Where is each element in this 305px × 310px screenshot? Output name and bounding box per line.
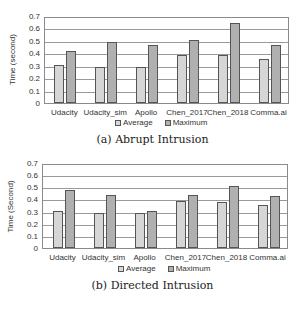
gridline bbox=[45, 79, 288, 80]
bar-average-comma-ai bbox=[259, 59, 269, 103]
gridline bbox=[43, 200, 287, 201]
gridline bbox=[45, 67, 288, 68]
bar-average-chen-2017 bbox=[176, 201, 186, 248]
bar-average-chen-2018 bbox=[217, 202, 227, 248]
y-tick-label: 0.4 bbox=[24, 196, 38, 204]
bar-average-apollo bbox=[135, 213, 145, 248]
legend: Average Maximum bbox=[118, 264, 210, 273]
average-swatch-icon bbox=[118, 266, 124, 272]
x-tick-label: Comma.ai bbox=[244, 108, 294, 117]
plot-area bbox=[42, 164, 288, 249]
gridline bbox=[43, 225, 287, 226]
figure-caption: (b) Directed Intrusion bbox=[0, 279, 305, 292]
legend-label: Maximum bbox=[176, 264, 211, 273]
y-tick-label: 0 bbox=[24, 245, 38, 253]
y-axis-label: Time (Second) bbox=[6, 167, 15, 247]
gridline bbox=[43, 176, 287, 177]
bar-maximum-udacity bbox=[65, 190, 75, 248]
chart-directed-intrusion: Time (Second) 00.10.20.30.40.50.60.7 Uda… bbox=[0, 155, 305, 310]
legend-label: Maximum bbox=[173, 118, 208, 127]
legend-label: Average bbox=[126, 264, 156, 273]
y-tick-label: 0.7 bbox=[24, 160, 38, 168]
bar-average-udacity-sim bbox=[94, 213, 104, 248]
bar-average-udacity bbox=[53, 211, 63, 248]
y-tick-label: 0.1 bbox=[26, 88, 40, 96]
bar-maximum-udacity bbox=[66, 51, 76, 103]
legend-item-average: Average bbox=[115, 118, 153, 127]
average-swatch-icon bbox=[115, 120, 121, 126]
y-tick-label: 0.6 bbox=[26, 25, 40, 33]
bar-maximum-chen-2018 bbox=[230, 23, 240, 103]
gridline bbox=[45, 54, 288, 55]
bar-average-udacity-sim bbox=[95, 67, 105, 103]
bar-average-chen-2017 bbox=[177, 55, 187, 103]
gridline bbox=[45, 92, 288, 93]
maximum-swatch-icon bbox=[168, 266, 174, 272]
legend-label: Average bbox=[123, 118, 153, 127]
gridline bbox=[43, 188, 287, 189]
bar-maximum-chen-2018 bbox=[229, 186, 239, 248]
gridline bbox=[45, 29, 288, 30]
bar-average-apollo bbox=[136, 67, 146, 103]
bar-maximum-udacity-sim bbox=[107, 42, 117, 103]
bar-maximum-comma-ai bbox=[271, 45, 281, 103]
y-tick-label: 0.6 bbox=[24, 172, 38, 180]
plot-area bbox=[44, 17, 289, 104]
y-tick-label: 0.4 bbox=[26, 50, 40, 58]
bar-average-chen-2018 bbox=[218, 55, 228, 103]
gridline bbox=[43, 237, 287, 238]
x-tick-label: Comma.ai bbox=[243, 253, 293, 262]
bar-average-udacity bbox=[54, 65, 64, 103]
legend-item-average: Average bbox=[118, 264, 156, 273]
y-tick-label: 0.3 bbox=[24, 209, 38, 217]
bar-maximum-chen-2017 bbox=[189, 40, 199, 103]
y-axis-label: Time (second) bbox=[8, 20, 17, 100]
gridline bbox=[43, 213, 287, 214]
gridline bbox=[45, 42, 288, 43]
bar-maximum-chen-2017 bbox=[188, 195, 198, 248]
bar-average-comma-ai bbox=[258, 205, 268, 248]
y-tick-label: 0.2 bbox=[26, 75, 40, 83]
maximum-swatch-icon bbox=[165, 120, 171, 126]
y-tick-label: 0.5 bbox=[26, 38, 40, 46]
y-tick-label: 0.1 bbox=[24, 233, 38, 241]
legend-item-maximum: Maximum bbox=[165, 118, 208, 127]
legend: Average Maximum bbox=[115, 118, 207, 127]
y-tick-label: 0.2 bbox=[24, 221, 38, 229]
legend-item-maximum: Maximum bbox=[168, 264, 211, 273]
y-tick-label: 0.3 bbox=[26, 63, 40, 71]
bar-maximum-apollo bbox=[148, 45, 158, 103]
figure-caption: (a) Abrupt Intrusion bbox=[0, 133, 305, 146]
bar-maximum-comma-ai bbox=[270, 196, 280, 248]
bar-maximum-apollo bbox=[147, 211, 157, 248]
bar-maximum-udacity-sim bbox=[106, 195, 116, 248]
chart-abrupt-intrusion: Time (second) 00.10.20.30.40.50.60.7 Uda… bbox=[0, 0, 305, 155]
y-tick-label: 0.7 bbox=[26, 13, 40, 21]
y-tick-label: 0.5 bbox=[24, 184, 38, 192]
y-tick-label: 0 bbox=[26, 100, 40, 108]
